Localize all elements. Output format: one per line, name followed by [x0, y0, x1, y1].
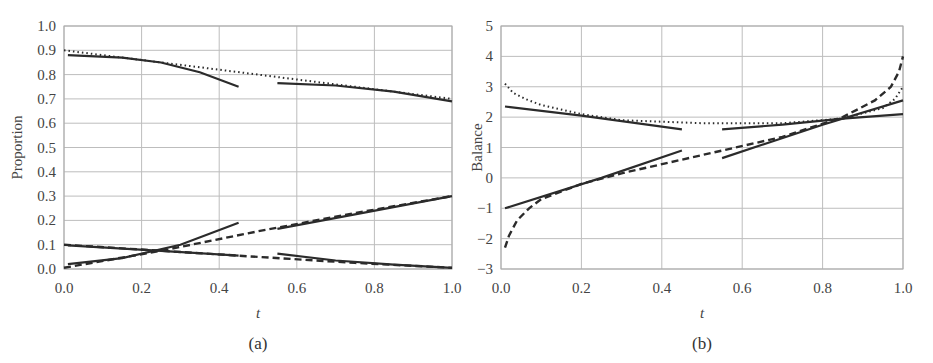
x-tick-label: 1.0	[894, 280, 913, 296]
y-tick-label: −1	[477, 200, 493, 216]
chart-a: 0.00.20.40.60.81.00.00.10.20.30.40.50.60…	[9, 18, 461, 353]
y-tick-label: 2	[486, 109, 494, 125]
y-tick-label: 0.9	[37, 42, 56, 58]
series-rising-solid-left	[68, 223, 239, 264]
y-tick-label: 1.0	[37, 18, 56, 34]
x-tick-label: 0.4	[210, 280, 229, 296]
y-tick-label: 4	[486, 48, 494, 64]
x-axis-label: t	[700, 305, 705, 321]
y-tick-label: 0.0	[37, 261, 56, 277]
y-tick-label: 0.2	[37, 212, 56, 228]
series-lower-solid-right	[722, 100, 903, 158]
series-upper-solid-left	[505, 107, 682, 130]
panel-label: (a)	[249, 334, 268, 353]
figure: 0.00.20.40.60.81.00.00.10.20.30.40.50.60…	[0, 0, 933, 363]
y-tick-label: 0.5	[37, 140, 56, 156]
x-axis-label: t	[256, 305, 261, 321]
x-tick-label: 0.6	[733, 280, 752, 296]
x-tick-label: 0.4	[652, 280, 671, 296]
y-axis-label: Balance	[469, 123, 485, 172]
y-tick-label: 0.1	[37, 237, 56, 253]
series-upper-solid-left	[68, 55, 239, 87]
chart-b: 0.00.20.40.60.81.0−3−2−1012345t(b)Balanc…	[469, 18, 912, 353]
y-tick-label: 0.7	[37, 91, 56, 107]
x-tick-label: 0.8	[813, 280, 832, 296]
y-tick-label: 3	[486, 79, 494, 95]
y-tick-label: 0.6	[37, 115, 56, 131]
y-tick-label: −3	[477, 261, 493, 277]
x-tick-label: 0.0	[55, 280, 74, 296]
x-tick-label: 0.2	[132, 280, 151, 296]
panel-label: (b)	[692, 334, 712, 353]
series-rising-solid-right	[277, 196, 452, 229]
x-tick-label: 1.0	[443, 280, 462, 296]
x-tick-label: 0.8	[365, 280, 384, 296]
y-tick-label: 0	[486, 170, 494, 186]
series-falling-solid-right	[277, 254, 452, 268]
y-tick-label: −2	[477, 231, 493, 247]
y-tick-label: 0.3	[37, 188, 56, 204]
y-axis-label: Proportion	[9, 115, 25, 180]
y-tick-label: 0.4	[37, 164, 56, 180]
x-tick-label: 0.2	[572, 280, 591, 296]
y-tick-label: 5	[486, 18, 494, 34]
x-tick-label: 0.6	[287, 280, 306, 296]
series-lower-solid-left	[505, 151, 682, 209]
x-tick-label: 0.0	[492, 280, 511, 296]
series-lower-dashed	[505, 56, 903, 247]
y-tick-label: 0.8	[37, 67, 56, 83]
y-tick-label: 1	[486, 140, 494, 156]
series-falling-solid-left	[68, 245, 239, 255]
